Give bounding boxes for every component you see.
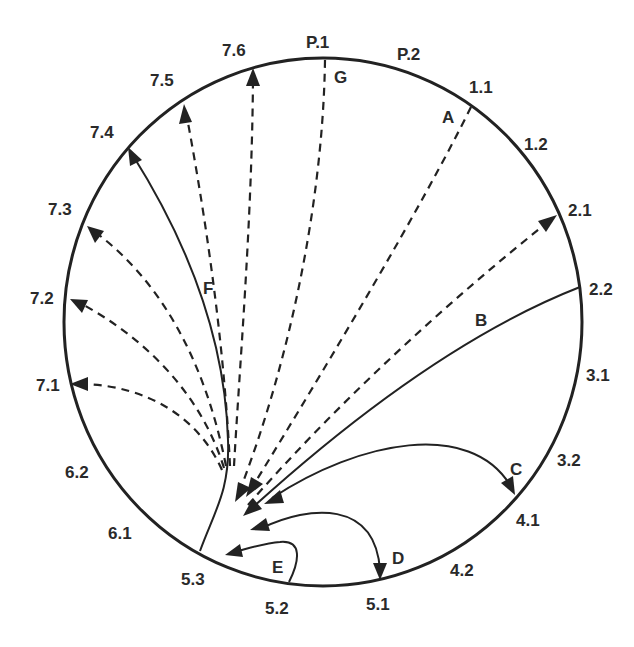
label-5-2: 5.2: [265, 599, 289, 618]
label-7-5: 7.5: [150, 71, 174, 90]
label-path-g: G: [334, 68, 347, 87]
path-to-2-1: [248, 222, 548, 505]
label-3-1: 3.1: [586, 366, 610, 385]
arrowhead-2-1-icon: [538, 215, 557, 232]
transition-diagram: P.1 P.2 1.1 1.2 2.1 2.2 3.1 3.2 4.1 4.2 …: [0, 0, 634, 647]
label-1-2: 1.2: [524, 135, 548, 154]
arrowhead-e-icon: [225, 544, 243, 557]
path-to-7-6: [234, 78, 253, 466]
arrowhead-7-4-icon: [128, 147, 142, 166]
arrowhead-d-53-icon: [250, 518, 270, 531]
label-path-b: B: [475, 311, 487, 330]
label-path-a: A: [442, 108, 454, 127]
label-7-2: 7.2: [30, 289, 54, 308]
label-7-3: 7.3: [48, 200, 72, 219]
label-2-1: 2.1: [568, 201, 592, 220]
label-7-1: 7.1: [36, 376, 60, 395]
label-1-1: 1.1: [469, 78, 493, 97]
label-5-1: 5.1: [366, 595, 390, 614]
path-e-from-5-2: [234, 542, 297, 582]
label-6-2: 6.2: [65, 463, 89, 482]
label-6-1: 6.1: [108, 524, 132, 543]
label-2-2: 2.2: [589, 280, 613, 299]
label-path-c: C: [510, 460, 522, 479]
path-to-7-3: [95, 232, 226, 466]
arrowhead-7-3-icon: [87, 226, 104, 243]
label-p1: P.1: [306, 33, 329, 52]
arrowhead-7-5-icon: [179, 104, 192, 124]
label-p2: P.2: [397, 45, 420, 64]
label-path-d: D: [392, 549, 404, 568]
label-5-3: 5.3: [181, 570, 205, 589]
path-c-loop-4-1: [272, 445, 510, 498]
label-4-1: 4.1: [516, 511, 540, 530]
path-b-from-2-2: [252, 287, 580, 508]
label-path-e: E: [272, 558, 283, 577]
label-7-4: 7.4: [90, 123, 114, 142]
label-7-6: 7.6: [222, 41, 246, 60]
label-4-2: 4.2: [450, 561, 474, 580]
arrowhead-a-icon: [246, 477, 263, 497]
label-path-f: F: [203, 279, 213, 298]
path-a-from-1-1: [253, 107, 471, 486]
path-f-to-7-4: [132, 154, 228, 551]
arrowhead-7-2-icon: [70, 299, 88, 313]
label-3-2: 3.2: [557, 451, 581, 470]
